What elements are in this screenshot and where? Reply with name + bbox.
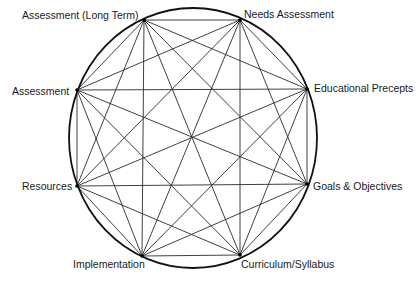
node-label-needs-assessment: Needs Assessment bbox=[244, 8, 334, 20]
edge-educational-precepts-implementation bbox=[142, 89, 307, 256]
edge-assessment-long-term-assessment bbox=[77, 20, 144, 90]
node-label-curriculum-syllabus: Curriculum/Syllabus bbox=[241, 258, 334, 270]
edge-educational-precepts-curriculum-syllabus bbox=[240, 89, 307, 255]
node-label-resources: Resources bbox=[22, 180, 72, 192]
node-dot-goals-objectives bbox=[305, 182, 309, 186]
node-label-goals-objectives: Goals & Objectives bbox=[313, 180, 402, 192]
edge-goals-objectives-curriculum-syllabus bbox=[240, 184, 307, 255]
edge-needs-assessment-educational-precepts bbox=[240, 20, 307, 89]
node-dot-educational-precepts bbox=[305, 87, 309, 91]
edge-lines bbox=[77, 20, 307, 256]
edge-implementation-resources bbox=[77, 186, 142, 256]
edge-assessment-long-term-resources bbox=[77, 20, 144, 186]
edge-needs-assessment-resources bbox=[77, 20, 240, 186]
node-dot-assessment-long-term bbox=[142, 18, 146, 22]
edge-educational-precepts-resources bbox=[77, 89, 307, 186]
outer-circle bbox=[69, 8, 317, 268]
node-label-assessment-long-term: Assessment (Long Term) bbox=[22, 9, 139, 21]
diagram-canvas bbox=[0, 0, 419, 283]
edge-goals-objectives-implementation bbox=[142, 184, 307, 256]
node-label-implementation: Implementation bbox=[73, 258, 145, 270]
edge-needs-assessment-goals-objectives bbox=[240, 20, 307, 184]
node-dot-curriculum-syllabus bbox=[238, 253, 242, 257]
edge-implementation-assessment bbox=[77, 90, 142, 256]
edge-educational-precepts-assessment bbox=[77, 89, 307, 90]
edge-curriculum-syllabus-resources bbox=[77, 186, 240, 255]
edge-goals-objectives-resources bbox=[77, 184, 307, 186]
edge-curriculum-syllabus-assessment bbox=[77, 90, 240, 255]
node-label-assessment: Assessment bbox=[12, 85, 69, 97]
node-dot-assessment bbox=[75, 88, 79, 92]
node-dot-needs-assessment bbox=[238, 18, 242, 22]
node-dot-resources bbox=[75, 184, 79, 188]
edge-curriculum-syllabus-implementation bbox=[142, 255, 240, 256]
edge-assessment-long-term-goals-objectives bbox=[144, 20, 307, 184]
edge-assessment-long-term-implementation bbox=[142, 20, 144, 256]
edge-goals-objectives-assessment bbox=[77, 90, 307, 184]
node-label-educational-precepts: Educational Precepts bbox=[314, 82, 413, 94]
